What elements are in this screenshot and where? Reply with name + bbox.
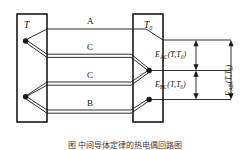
emf-ab-args: (T,T₀)	[224, 65, 233, 83]
emf-ab-label: EAB(T,T₀)	[225, 65, 233, 96]
emf-bc-args: (T,T₀)	[167, 80, 185, 89]
conductor-c-upper-label: C	[87, 43, 93, 52]
junction-dot-cold-lower	[147, 97, 152, 102]
cold-junction-block-label: T₀	[144, 21, 153, 31]
emf-bc-label: EBC(T,T₀)	[155, 81, 186, 89]
emf-ab-base: E	[224, 91, 233, 96]
emf-ac-subscript: AC	[160, 54, 168, 60]
conductor-a-path	[27, 29, 232, 40]
conductor-a-label: A	[87, 17, 94, 26]
figure-caption: 图 中间导体定律的热电偶回路图	[0, 139, 250, 150]
conductor-c-lower-label: C	[87, 71, 93, 80]
emf-ac-args: (T,T₀)	[168, 50, 186, 59]
emf-ac-label: EAC(T,T₀)	[155, 51, 186, 59]
conductor-b-label: B	[87, 99, 93, 108]
diagram-canvas	[0, 0, 250, 150]
emf-ab-subscript: AB	[228, 83, 234, 91]
junction-dot-cold-upper	[147, 68, 152, 73]
junction-dot-hot-lower	[23, 94, 28, 99]
thermocouple-diagram-figure: T T₀ A C C B EAC(T,T₀) EBC(T,T₀) EAB(T,T…	[0, 0, 250, 150]
dimension-arrow-emf-ac	[193, 40, 198, 71]
hot-junction-block-label: T	[24, 21, 29, 31]
junction-dot-hot-upper	[23, 38, 28, 43]
emf-bc-subscript: BC	[160, 84, 167, 90]
hot-junction-block	[17, 14, 47, 122]
dimension-arrow-emf-bc	[193, 71, 198, 100]
